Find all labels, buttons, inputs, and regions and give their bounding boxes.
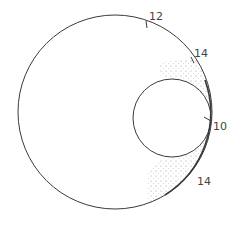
diagram-canvas: 12 14 10 14 — [0, 0, 236, 227]
label-12: 12 — [149, 10, 163, 23]
label-10: 10 — [213, 120, 227, 133]
stipple-region-lower — [147, 122, 214, 208]
circles-diagram: 12 14 10 14 — [0, 0, 236, 227]
tick-mark-top — [146, 21, 147, 28]
label-14-upper: 14 — [194, 47, 208, 60]
inner-circle — [133, 79, 211, 157]
label-14-lower: 14 — [197, 175, 211, 188]
